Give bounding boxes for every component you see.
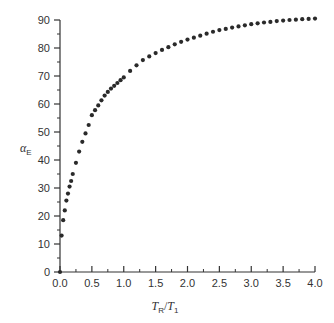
y-tick-label: 40: [38, 154, 50, 166]
data-point: [96, 103, 100, 107]
y-tick-label: 60: [38, 98, 50, 110]
x-tick-label: 3.0: [244, 277, 259, 289]
data-point: [154, 51, 158, 55]
data-points: [58, 17, 317, 275]
x-tick-label: 0.0: [52, 277, 67, 289]
data-point: [83, 131, 87, 135]
data-point: [115, 81, 119, 85]
data-point: [59, 234, 63, 238]
data-point: [230, 25, 234, 29]
x-tick-label: 2.0: [180, 277, 195, 289]
data-point: [71, 172, 75, 176]
data-point: [80, 140, 84, 144]
data-point: [173, 42, 177, 46]
x-tick-label: 4.0: [307, 277, 322, 289]
data-point: [224, 27, 228, 31]
data-point: [160, 48, 164, 52]
data-point: [249, 22, 253, 26]
data-point: [262, 20, 266, 24]
y-tick-label: 10: [38, 238, 50, 250]
x-tick-label: 3.5: [275, 277, 290, 289]
data-point: [67, 185, 71, 189]
data-point: [74, 161, 78, 165]
data-point: [294, 18, 298, 22]
data-point: [307, 17, 311, 21]
data-point: [122, 75, 126, 79]
data-point: [287, 18, 291, 22]
data-point: [268, 20, 272, 24]
data-point: [118, 78, 122, 82]
data-point: [281, 18, 285, 22]
data-point: [112, 84, 116, 88]
data-point: [192, 36, 196, 40]
data-point: [66, 192, 70, 196]
y-tick-label: 70: [38, 70, 50, 82]
y-tick-label: 0: [44, 266, 50, 278]
x-tick-label: 1.0: [116, 277, 131, 289]
y-axis: 0102030405060708090: [38, 14, 60, 278]
data-point: [109, 87, 113, 91]
x-tick-label: 0.5: [84, 277, 99, 289]
data-point: [217, 28, 221, 32]
data-point: [87, 123, 91, 127]
data-point: [179, 40, 183, 44]
data-point: [134, 63, 138, 67]
data-point: [313, 17, 317, 21]
data-point: [63, 208, 67, 212]
data-point: [93, 108, 97, 112]
data-point: [58, 270, 62, 274]
data-point: [90, 113, 94, 117]
x-axis-label: TR/T1: [152, 299, 180, 315]
data-point: [69, 179, 73, 183]
x-tick-label: 1.5: [148, 277, 163, 289]
y-tick-label: 50: [38, 126, 50, 138]
data-point: [99, 98, 103, 102]
y-tick-label: 80: [38, 42, 50, 54]
data-point: [106, 90, 110, 94]
data-point: [77, 150, 81, 154]
data-point: [61, 218, 65, 222]
data-point: [256, 21, 260, 25]
data-point: [198, 34, 202, 38]
y-axis-label: αE: [20, 141, 32, 157]
data-point: [243, 23, 247, 27]
y-tick-label: 20: [38, 210, 50, 222]
data-point: [103, 94, 107, 98]
x-tick-label: 2.5: [212, 277, 227, 289]
y-tick-label: 90: [38, 14, 50, 26]
data-point: [275, 19, 279, 23]
data-point: [300, 17, 304, 21]
y-tick-label: 30: [38, 182, 50, 194]
data-point: [211, 30, 215, 34]
data-point: [64, 199, 68, 203]
data-point: [128, 69, 132, 73]
data-point: [147, 54, 151, 58]
data-point: [236, 24, 240, 28]
chart: 0102030405060708090 0.00.51.01.52.02.53.…: [0, 0, 334, 323]
data-point: [185, 38, 189, 42]
data-point: [205, 32, 209, 36]
data-point: [166, 45, 170, 49]
x-axis: 0.00.51.01.52.02.53.03.54.0: [52, 266, 322, 289]
data-point: [141, 58, 145, 62]
